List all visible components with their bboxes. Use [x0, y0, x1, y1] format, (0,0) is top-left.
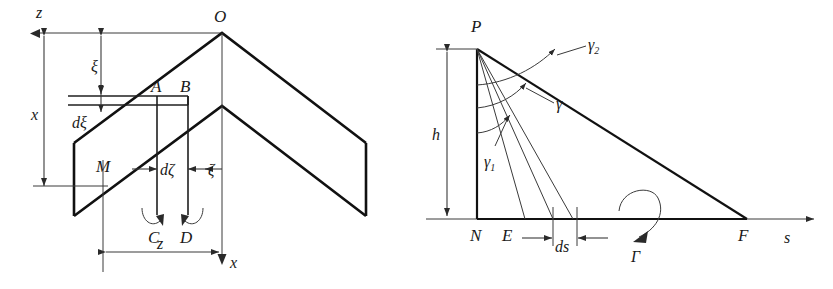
z-axis-arrow-icon [30, 29, 40, 38]
ray-P-to-ds-right [477, 49, 573, 219]
label-dim-dzeta: dζ [160, 161, 176, 179]
vortex-swirl-D-arrowhead-icon [181, 214, 189, 226]
label-point-B: B [180, 77, 191, 96]
angle-arc-gamma2 [477, 49, 555, 85]
wing-trailing-edge [74, 106, 366, 216]
left-diagram: z x O C D A B M x [0, 0, 416, 289]
label-dim-h: h [432, 126, 440, 143]
label-angle-gamma1: γ1 [484, 153, 495, 173]
figure-canvas: z x O C D A B M x [0, 0, 833, 289]
label-angle-gamma2: γ2 [588, 36, 599, 56]
gamma2-subscript: 2 [594, 45, 599, 56]
label-x-axis: x [229, 254, 237, 271]
gamma1-subscript: 1 [490, 162, 495, 173]
label-point-A: A [150, 77, 162, 96]
label-apex-O: O [214, 7, 226, 26]
circulation-arrowhead-icon [633, 231, 648, 243]
ray-P-to-ds-left [477, 49, 553, 219]
label-dim-dxi: dξ [72, 114, 87, 131]
label-dim-zeta: ζ [208, 161, 216, 179]
label-point-P: P [470, 17, 481, 36]
label-circulation-gamma: Γ [630, 248, 641, 265]
leader-gamma2 [557, 46, 586, 55]
right-diagram: s ds γ1 γ γ2 [416, 0, 833, 289]
label-point-E: E [501, 226, 513, 245]
label-angle-gamma: γ [556, 95, 563, 113]
circulation-swirl-icon [619, 190, 661, 237]
label-z-axis: z [35, 4, 43, 21]
label-point-N: N [469, 226, 483, 245]
label-dim-xi: ξ [91, 58, 98, 75]
label-point-F: F [737, 226, 749, 245]
label-point-D: D [179, 228, 193, 247]
label-dim-ds: ds [555, 238, 569, 255]
label-dim-x: x [30, 106, 38, 123]
label-dim-z: z [156, 235, 164, 252]
label-s-axis: s [784, 229, 790, 246]
wing-leading-edge [74, 33, 366, 143]
vortex-swirl-C-arrowhead-icon [156, 214, 164, 226]
x-axis-arrow-icon [218, 254, 227, 265]
